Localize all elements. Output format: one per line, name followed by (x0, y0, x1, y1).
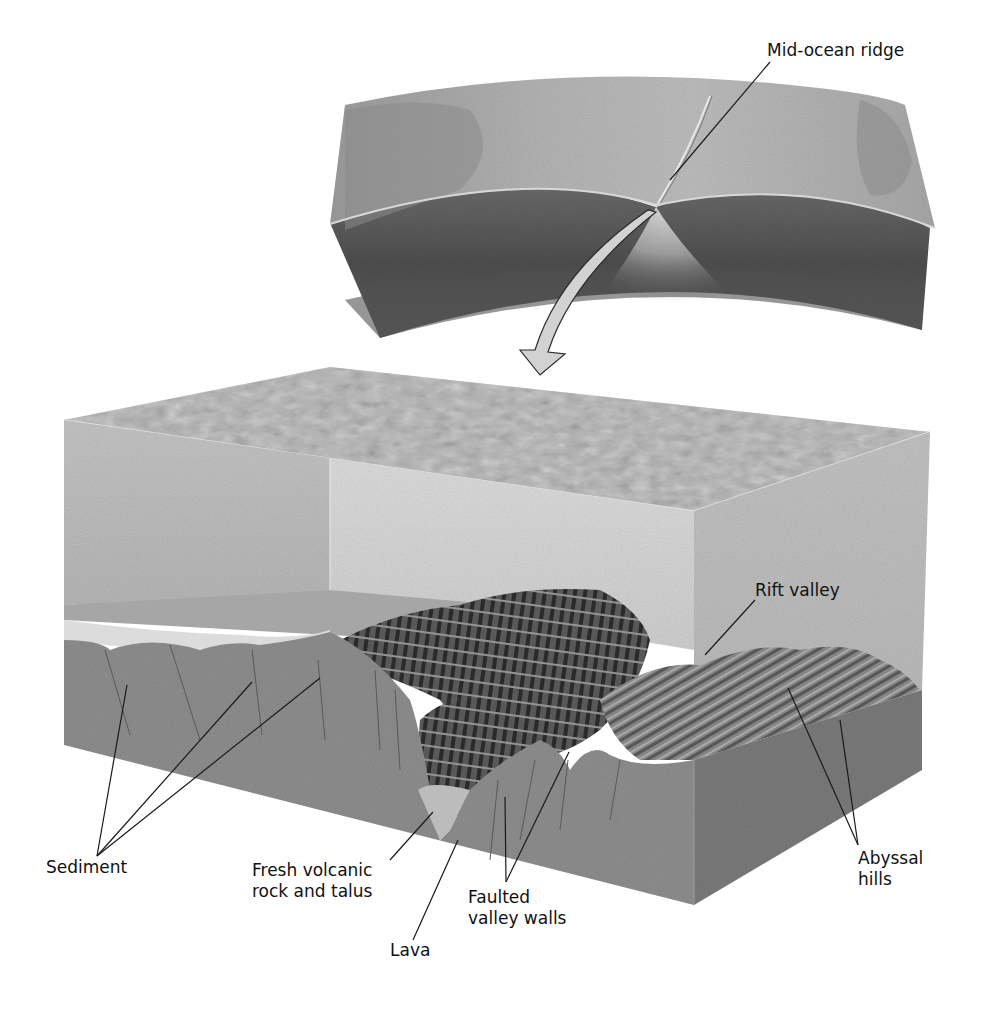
label-abyssal-line2: hills (858, 869, 923, 890)
label-faulted-line2: valley walls (468, 908, 566, 929)
lithosphere-slab (330, 76, 935, 338)
diagram-canvas (0, 0, 983, 1010)
label-fresh-volcanic-rock: Fresh volcanic rock and talus (252, 860, 372, 902)
label-faulted-line1: Faulted (468, 887, 566, 908)
leader-lava (413, 840, 458, 940)
label-rift-valley: Rift valley (755, 580, 840, 601)
label-abyssal-line1: Abyssal (858, 848, 923, 869)
ridge-block (64, 367, 930, 905)
label-abyssal-hills: Abyssal hills (858, 848, 923, 890)
label-fresh-volcanic-line1: Fresh volcanic (252, 860, 372, 881)
label-lava: Lava (390, 940, 430, 961)
label-mid-ocean-ridge: Mid-ocean ridge (767, 40, 904, 61)
label-fresh-volcanic-line2: rock and talus (252, 881, 372, 902)
label-sediment: Sediment (46, 857, 127, 878)
label-faulted-valley-walls: Faulted valley walls (468, 887, 566, 929)
mid-ocean-ridge-diagram: Mid-ocean ridge Rift valley Sediment Fre… (0, 0, 983, 1010)
